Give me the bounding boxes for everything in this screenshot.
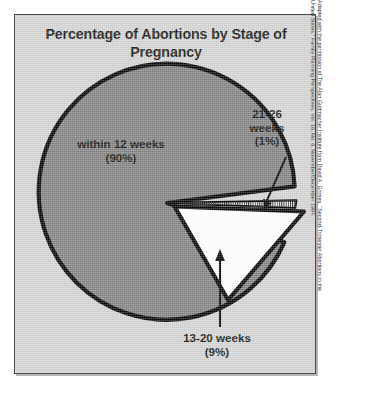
chart-panel: Percentage of Abortions by Stage of Preg…	[14, 14, 316, 374]
slice-label-21-26-weeks-value: (1%)	[255, 134, 279, 147]
slice-label-21-26-weeks: 21-26 weeks (1%)	[225, 107, 309, 148]
chart-title: Percentage of Abortions by Stage of Preg…	[23, 26, 309, 61]
pie-slice-within-12-weeks	[39, 64, 295, 320]
source-credit-line-1: Adapted with the permission of The Alan …	[316, 0, 323, 393]
chart-title-line-2: Pregnancy	[130, 44, 202, 60]
slice-label-13-20-weeks: 13-20 weeks (9%)	[149, 331, 285, 358]
slice-label-21-26-weeks-unit: weeks	[250, 121, 285, 134]
slice-label-within-12-weeks-value: (90%)	[106, 151, 137, 164]
slice-label-21-26-weeks-range: 21-26	[252, 107, 282, 120]
slice-label-13-20-weeks-value: (9%)	[205, 345, 229, 358]
pie-chart-graphic	[15, 15, 316, 374]
slice-label-within-12-weeks: within 12 weeks (90%)	[53, 137, 189, 164]
slice-label-within-12-weeks-name: within 12 weeks	[77, 137, 165, 150]
slice-label-13-20-weeks-name: 13-20 weeks	[183, 331, 251, 344]
chart-title-line-1: Percentage of Abortions by Stage of	[45, 26, 286, 42]
